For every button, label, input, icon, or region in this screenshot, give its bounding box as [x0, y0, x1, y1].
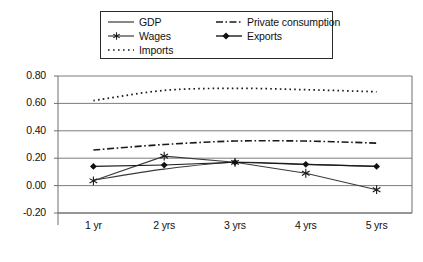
- x-axis-tick-label: 5 yrs: [354, 219, 400, 231]
- series-exports: [90, 159, 380, 170]
- chart-figure: GDP Private consumption: [0, 0, 423, 262]
- x-axis-tick-label: 4 yrs: [283, 219, 329, 231]
- x-axis-tick-label: 2 yrs: [141, 219, 187, 231]
- x-axis-tick-label: 3 yrs: [212, 219, 258, 231]
- y-axis-tick-label: 0.00: [6, 179, 46, 191]
- y-axis-tick-label: -0.20: [6, 206, 46, 218]
- y-axis-tick-label: 0.20: [6, 151, 46, 163]
- x-axis-tick-label: 1 yr: [70, 219, 116, 231]
- series-private-consumption: [93, 141, 376, 150]
- chart-series: [90, 88, 381, 194]
- chart-axes: [58, 76, 412, 225]
- series-imports: [93, 88, 376, 100]
- y-axis-tick-label: 0.60: [6, 96, 46, 108]
- y-axis-tick-label: 0.40: [6, 124, 46, 136]
- chart-gridlines: [58, 76, 412, 213]
- chart-axis-ticks: [54, 76, 58, 213]
- y-axis-tick-label: 0.80: [6, 69, 46, 81]
